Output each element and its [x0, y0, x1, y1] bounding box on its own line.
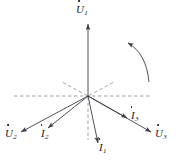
phasor-symbol-U3: U [155, 127, 163, 139]
phasor-vector-U2 [21, 96, 88, 132]
phasor-label-I3: I3 [131, 110, 138, 121]
phasor-dot-U3 [157, 124, 159, 126]
phasor-subscript-U1: 1 [84, 9, 88, 17]
phasor-subscript-U2: 2 [13, 133, 17, 141]
phasor-label-I1: I1 [99, 142, 106, 153]
phasor-vector-I3 [88, 96, 127, 118]
phasor-label-U3: U3 [155, 128, 166, 139]
diagonal-upper-right-dashed [89, 82, 114, 96]
phasor-dot-I2 [41, 124, 43, 126]
phasor-label-I2: I2 [41, 128, 48, 139]
phasor-subscript-I2: 2 [45, 133, 49, 141]
phasor-subscript-I1: 1 [103, 147, 107, 155]
phasor-dot-I3 [131, 106, 133, 108]
phasor-diagram-figure: U1 U2 U3 I1 I2 I3 [0, 0, 176, 161]
phasor-vector-I1 [88, 96, 98, 143]
phasor-label-U1: U1 [76, 4, 87, 15]
phasor-symbol-U1: U [76, 3, 84, 15]
phasor-dot-I1 [99, 138, 101, 140]
phasor-dot-U1 [78, 0, 80, 2]
phasor-dot-U2 [7, 124, 9, 126]
rotation-arc-group [128, 43, 149, 82]
phasor-label-U2: U2 [5, 128, 16, 139]
phasor-symbol-U2: U [5, 127, 13, 139]
counterclockwise-rotation-arc [128, 43, 149, 82]
diagonal-upper-left-dashed [62, 82, 87, 96]
phasor-subscript-U3: 3 [163, 133, 167, 141]
phasor-subscript-I3: 3 [135, 115, 139, 123]
phasor-diagram-canvas [0, 0, 176, 161]
phasor-vector-I2 [48, 96, 88, 128]
reference-lines-group [14, 82, 150, 140]
